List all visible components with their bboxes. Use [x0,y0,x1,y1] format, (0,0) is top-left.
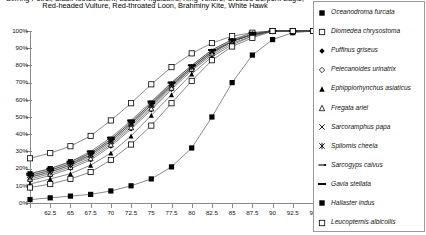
y-axis-label: 30% [2,148,28,154]
legend-item-label: Diomedea chrysostoma [331,27,400,34]
marker-thick-dash-icon [314,174,331,193]
marker-open-square-icon [314,212,331,231]
x-tick [91,203,92,208]
series-gavia-stellata [26,31,317,174]
y-axis-label: 20% [2,165,28,171]
marker-filled-diamond-icon [314,40,331,59]
y-axis-label: 70% [2,79,28,85]
marker-filled-square-icon [314,2,331,21]
x-tick [293,203,294,208]
marker-dash-dot-icon [314,155,331,174]
legend-item[interactable]: Haliaster indus [314,193,424,212]
y-axis-label: 60% [2,97,28,103]
x-tick [111,203,112,208]
x-tick [50,203,51,208]
legend-item-label: Haliaster indus [331,199,375,206]
x-tick [273,203,274,208]
marker-open-square-icon [314,21,331,40]
x-tick [151,203,152,208]
x-tick [192,203,193,208]
legend-item[interactable]: Diomedea chrysostoma [314,21,424,40]
chart-title: Stirring Petrel, Black-footed Stork, Les… [0,0,310,10]
y-axis-label: 40% [2,131,28,137]
legend-item-label: Sarcoramphus papa [331,123,390,130]
y-axis-label: 10% [2,183,28,189]
legend-item[interactable]: Fregata ariel [314,97,424,116]
legend-item[interactable]: Leucopternis albicollis [314,212,424,231]
legend-item[interactable]: Ephippiorhynchus asiaticus [314,78,424,97]
legend-item[interactable]: Sarcogyps calvus [314,155,424,174]
series-sarcoramphus-papa [28,29,316,178]
series-spilornis-cheela [28,28,316,180]
legend-item-label: Puffinus griseus [331,46,378,53]
chart-page: Stirring Petrel, Black-footed Stork, Les… [0,0,426,235]
chart-title-line-2: Red-headed Vulture, Red-throated Loon, B… [0,2,310,9]
series-puffinus-griseus [28,29,316,184]
y-axis-label: 0% [2,200,28,206]
chart-legend: Oceanodroma furcataDiomedea chrysostomaP… [313,1,425,232]
series-fregata-ariel [28,29,316,182]
marker-open-triangle-icon [314,98,331,117]
x-tick [172,203,173,208]
legend-item-label: Ephippiorhynchus asiaticus [331,84,411,91]
x-tick [212,203,213,208]
series-haliaster-indus [27,28,315,202]
legend-item[interactable]: Oceanodroma furcata [314,2,424,21]
y-axis-label: 50% [2,114,28,120]
legend-item-label: Oceanodroma furcata [331,8,395,15]
marker-cross-x-icon [314,117,331,136]
marker-open-diamond-icon [314,59,331,78]
y-axis-label: 80% [2,62,28,68]
legend-item[interactable]: Pelecanoides urinatrix [314,59,424,78]
legend-item[interactable]: Sarcoramphus papa [314,117,424,136]
x-tick [30,203,31,208]
marker-asterisk-icon [314,136,331,155]
x-tick [131,203,132,208]
x-tick [232,203,233,208]
series-oceanodroma-furcata [27,28,315,176]
series-ephippiorhynchus-asiaticus [28,29,316,187]
legend-item[interactable]: Gavia stellata [314,174,424,193]
x-tick [252,203,253,208]
legend-item[interactable]: Puffinus griseus [314,40,424,59]
marker-filled-square-icon [314,193,331,212]
series-leucopternis-albicollis [27,28,315,190]
legend-item-label: Spilornis cheela [331,142,378,149]
series-diomedea-chrysostoma [27,28,315,160]
legend-item[interactable]: Spilornis cheela [314,136,424,155]
marker-filled-triangle-icon [314,78,331,97]
series-sarcogyps-calvus [27,30,318,177]
y-axis-label: 90% [2,45,28,51]
legend-item-label: Gavia stellata [331,180,371,187]
legend-item-label: Fregata ariel [331,104,368,111]
series-pelecanoides-urinatrix [28,29,316,180]
x-tick [70,203,71,208]
legend-item-label: Leucopternis albicollis [331,218,396,225]
y-axis-label: 100% [2,28,28,34]
legend-item-label: Sarcogyps calvus [331,161,383,168]
legend-item-label: Pelecanoides urinatrix [331,65,396,72]
